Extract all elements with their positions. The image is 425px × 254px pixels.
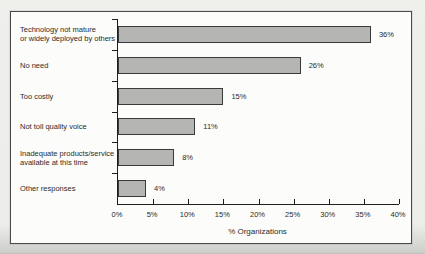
x-axis-tick <box>188 199 189 204</box>
category-labels: Technology not mature or widely deployed… <box>20 19 116 204</box>
x-axis-tick <box>294 199 295 204</box>
bar <box>118 118 195 135</box>
x-axis-tick <box>223 199 224 204</box>
bar <box>118 88 223 105</box>
page: { "chart_data": { "type": "bar", "orient… <box>0 0 425 254</box>
x-tick-label: 30% <box>320 210 335 219</box>
category-label: Not toll quality voice <box>20 112 116 143</box>
bar-row: 11% <box>118 112 399 143</box>
x-axis-tick <box>364 199 365 204</box>
y-axis-tick <box>112 142 118 143</box>
y-axis-tick <box>112 112 118 113</box>
category-label: Too costly <box>20 81 116 112</box>
bar <box>118 26 371 43</box>
x-axis-tick-labels: 0%5%10%15%20%25%30%35%40% <box>117 210 398 220</box>
bar <box>118 149 174 166</box>
bar-row: 8% <box>118 142 399 173</box>
x-tick-label: 25% <box>285 210 300 219</box>
y-axis-tick <box>112 81 118 82</box>
bar-value-label: 36% <box>379 30 394 39</box>
x-axis-tick <box>153 199 154 204</box>
y-axis-tick <box>112 173 118 174</box>
x-tick-label: 0% <box>112 210 123 219</box>
x-tick-label: 20% <box>250 210 265 219</box>
x-tick-label: 15% <box>215 210 230 219</box>
x-axis-title: % Organizations <box>117 227 398 236</box>
plot-area: 36%26%15%11%8%4% <box>117 19 399 205</box>
category-label: No need <box>20 50 116 81</box>
bar <box>118 180 146 197</box>
y-axis-tick <box>112 50 118 51</box>
bar-row: 26% <box>118 50 399 81</box>
bar-value-label: 11% <box>203 122 217 131</box>
category-label: Technology not mature or widely deployed… <box>20 19 116 50</box>
category-label: Other responses <box>20 173 116 204</box>
bar-value-label: 8% <box>182 153 193 162</box>
category-label: Inadequate products/service available at… <box>20 142 116 173</box>
bar-value-label: 4% <box>154 184 165 193</box>
chart-frame: Technology not mature or widely deployed… <box>10 11 412 244</box>
x-tick-label: 5% <box>147 210 158 219</box>
x-axis-tick <box>329 199 330 204</box>
bar <box>118 57 301 74</box>
y-axis-tick <box>112 19 118 20</box>
bar-row: 15% <box>118 81 399 112</box>
x-tick-label: 40% <box>390 210 405 219</box>
x-tick-label: 35% <box>355 210 370 219</box>
x-tick-label: 10% <box>180 210 195 219</box>
x-axis-tick <box>259 199 260 204</box>
x-axis-tick <box>399 199 400 204</box>
bar-row: 36% <box>118 19 399 50</box>
bar-value-label: 26% <box>309 61 324 70</box>
bar-value-label: 15% <box>231 92 246 101</box>
